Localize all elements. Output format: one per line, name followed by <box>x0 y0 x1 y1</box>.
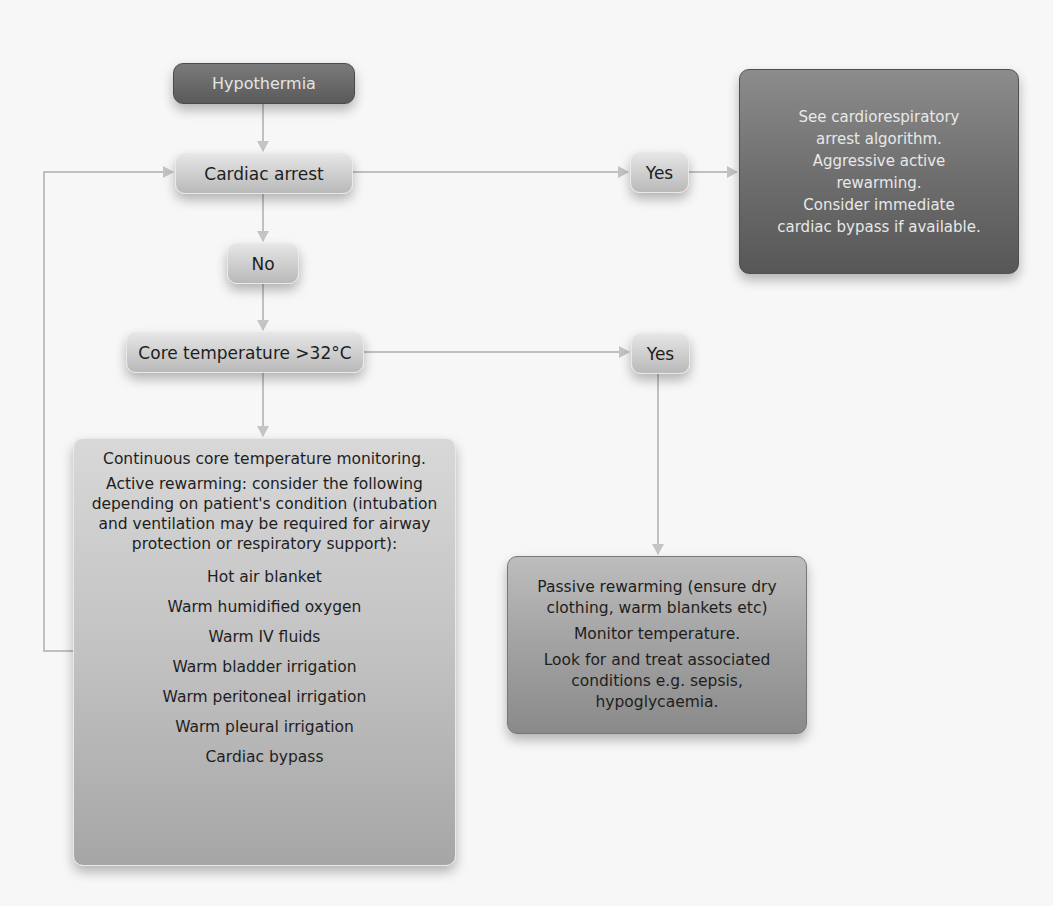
monitor-temperature-text: Monitor temperature. <box>574 624 740 645</box>
rewarming-item: Warm peritoneal irrigation <box>163 687 367 707</box>
yes-temp-label: Yes <box>647 344 674 364</box>
arrest-management-box: See cardiorespiratory arrest algorithm. … <box>739 69 1019 274</box>
monitoring-text: Continuous core temperature monitoring. <box>103 449 426 469</box>
yes-arrest-label: Yes <box>646 163 673 183</box>
arrest-line: rewarming. <box>836 172 921 194</box>
cardiac-arrest-node: Cardiac arrest <box>175 153 353 194</box>
hypothermia-label: Hypothermia <box>212 74 316 93</box>
associated-conditions-text: Look for and treat associated conditions… <box>518 650 796 713</box>
hypothermia-node: Hypothermia <box>173 63 355 104</box>
active-rewarming-box: Continuous core temperature monitoring. … <box>73 438 456 866</box>
passive-rewarming-box: Passive rewarming (ensure dry clothing, … <box>507 556 807 734</box>
yes-arrest-node: Yes <box>630 152 689 193</box>
rewarming-item: Hot air blanket <box>207 567 322 587</box>
arrest-line: arrest algorithm. <box>816 128 942 150</box>
core-temp-node: Core temperature >32°C <box>126 332 364 373</box>
core-temp-label: Core temperature >32°C <box>138 343 351 363</box>
active-rewarming-text: Active rewarming: consider the following… <box>84 474 445 554</box>
hypothermia-flowchart: Hypothermia Cardiac arrest No Core tempe… <box>0 0 1053 906</box>
arrest-line: cardiac bypass if available. <box>777 216 980 238</box>
rewarming-item: Warm IV fluids <box>209 627 321 647</box>
rewarming-item: Warm humidified oxygen <box>168 597 362 617</box>
arrest-line: Aggressive active <box>813 150 946 172</box>
yes-temp-node: Yes <box>631 333 690 374</box>
passive-rewarming-text: Passive rewarming (ensure dry clothing, … <box>518 577 796 619</box>
rewarming-item: Cardiac bypass <box>205 747 323 767</box>
arrest-line: See cardiorespiratory <box>799 106 960 128</box>
arrest-line: Consider immediate <box>803 194 954 216</box>
no-label: No <box>251 254 274 274</box>
cardiac-arrest-label: Cardiac arrest <box>204 164 323 184</box>
no-node: No <box>227 243 299 284</box>
rewarming-item: Warm bladder irrigation <box>172 657 356 677</box>
rewarming-item: Warm pleural irrigation <box>175 717 354 737</box>
